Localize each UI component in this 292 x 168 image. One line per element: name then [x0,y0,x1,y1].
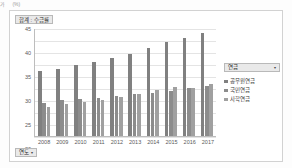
x-axis-tick-label: 2011 [90,139,108,146]
x-axis-tick-label: 2017 [199,139,217,146]
x-axis-line [34,136,216,137]
legend-items: 공무원연금국민연금사학연금 [224,77,280,104]
x-axis-tick-label: 2012 [108,139,126,146]
bar[interactable] [187,88,191,136]
legend-swatch-icon [224,89,228,93]
bar[interactable] [78,99,82,136]
x-axis-labels: 2008200920102011201220132014201520162017 [35,139,217,146]
chevron-down-icon: ▾ [31,151,33,155]
spreadsheet-top-row: 가 (%) [0,0,292,9]
legend-field-button[interactable]: 연금 ▾ [224,63,280,72]
x-axis-tick-label: 2016 [181,139,199,146]
bar[interactable] [56,69,60,136]
legend-item[interactable]: 사학연금 [224,95,280,104]
sheet-cell-1: (%) [12,1,20,7]
bar[interactable] [110,58,114,136]
legend-swatch-icon [224,80,228,84]
y-axis-tick-label: 45 [25,26,31,32]
y-axis-tick-label: 25 [25,122,31,128]
y-axis-tick-label: 40 [25,50,31,56]
row-field-button[interactable]: 연도 ▾ [15,148,37,157]
row-field-label: 연도 [19,148,29,157]
y-axis-tick-label: 35 [25,74,31,80]
bar-group [71,29,89,136]
x-axis-tick-label: 2009 [53,139,71,146]
plot-inner: 051015202530354045 [34,29,216,137]
bar-group [125,29,143,136]
bar[interactable] [92,62,96,136]
bar[interactable] [97,98,101,136]
bar-group [107,29,125,136]
bar[interactable] [155,90,159,136]
pivotchart-screenshot: 가 (%) 합계 : 수급률 051015202530354045 200820… [0,0,292,168]
bar[interactable] [191,88,195,136]
bar[interactable] [209,84,213,136]
bar[interactable] [165,42,169,136]
legend-item-label: 국민연금 [230,86,250,95]
bar[interactable] [169,91,173,136]
bar[interactable] [119,97,123,136]
x-axis-tick-label: 2010 [71,139,89,146]
plot-area: 051015202530354045 [34,29,216,137]
sheet-cell-0: 가 [0,0,5,7]
x-axis-tick-label: 2013 [126,139,144,146]
bar[interactable] [173,87,177,136]
chart-title-field-button[interactable]: 합계 : 수급률 [15,15,53,24]
bar[interactable] [47,107,51,136]
bar[interactable] [115,96,119,136]
x-axis-tick-label: 2015 [162,139,180,146]
legend-field-label: 연금 [228,63,238,72]
legend-swatch-icon [224,98,228,102]
x-axis-tick-label: 2008 [35,139,53,146]
gridline: 0 [34,137,216,138]
bar[interactable] [151,93,155,136]
legend-item-label: 사학연금 [230,95,250,104]
legend-item[interactable]: 국민연금 [224,86,280,95]
x-axis-tick-label: 2014 [144,139,162,146]
bar[interactable] [42,103,46,136]
bar[interactable] [201,33,205,136]
bar-group [162,29,180,136]
chart-frame[interactable]: 합계 : 수급률 051015202530354045 200820092010… [9,10,283,162]
chevron-down-icon: ▾ [274,66,276,70]
bar[interactable] [65,104,69,136]
bar[interactable] [38,71,42,136]
legend-item[interactable]: 공무원연금 [224,77,280,86]
bar-group [53,29,71,136]
bar-group [198,29,216,136]
bar[interactable] [205,86,209,136]
bar-group [144,29,162,136]
bar[interactable] [183,38,187,136]
bar[interactable] [74,65,78,136]
bar[interactable] [83,102,87,136]
bar[interactable] [101,100,105,136]
bar[interactable] [147,48,151,136]
bar[interactable] [133,94,137,136]
bar-group [180,29,198,136]
bar-group [35,29,53,136]
legend: 연금 ▾ 공무원연금국민연금사학연금 [224,63,280,104]
bar[interactable] [137,94,141,136]
bar[interactable] [128,54,132,136]
bar-group [89,29,107,136]
legend-item-label: 공무원연금 [230,77,255,86]
y-axis-tick-label: 30 [25,98,31,104]
bar[interactable] [60,100,64,136]
bar-groups [35,29,216,136]
